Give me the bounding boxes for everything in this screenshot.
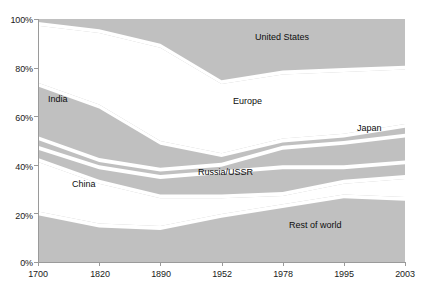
y-tick-label-40: 40% bbox=[0, 162, 33, 172]
series-label-china: China bbox=[72, 179, 96, 189]
x-tick-label-1700: 1700 bbox=[18, 269, 58, 279]
series-label-japan: Japan bbox=[357, 123, 382, 133]
series-label-india: India bbox=[48, 94, 68, 104]
y-tick-label-0: 0% bbox=[0, 258, 33, 268]
series-label-united-states: United States bbox=[255, 32, 309, 42]
y-tick-label-20: 20% bbox=[0, 211, 33, 221]
y-tick-label-100: 100% bbox=[0, 15, 33, 25]
chart-bands bbox=[38, 19, 405, 262]
series-label-rest-of-world: Rest of world bbox=[289, 220, 342, 230]
x-tick-label-1820: 1820 bbox=[80, 269, 120, 279]
y-tick-label-80: 80% bbox=[0, 64, 33, 74]
x-tick-label-1995: 1995 bbox=[324, 269, 364, 279]
y-tick-label-60: 60% bbox=[0, 113, 33, 123]
series-label-europe: Europe bbox=[233, 96, 262, 106]
chart-canvas bbox=[0, 0, 425, 289]
stacked-area-chart: 100% 80% 60% 40% 20% 0% 1700 1820 1890 1… bbox=[0, 0, 425, 289]
x-tick-label-1890: 1890 bbox=[141, 269, 181, 279]
x-tick-label-2003: 2003 bbox=[385, 269, 425, 279]
x-tick-label-1952: 1952 bbox=[202, 269, 242, 279]
series-label-russia-ussr: Russia/USSR bbox=[198, 167, 253, 177]
x-tick-label-1978: 1978 bbox=[263, 269, 303, 279]
